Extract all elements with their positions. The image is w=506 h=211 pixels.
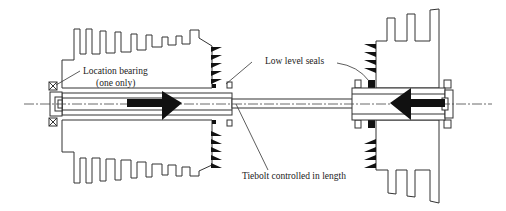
right-disk-lower bbox=[376, 120, 439, 203]
labyrinth-seals-left-upper bbox=[211, 47, 222, 84]
labyrinth-seals-left-lower bbox=[211, 131, 222, 168]
labyrinth-seals-right-upper bbox=[364, 44, 376, 73]
left-disk-upper bbox=[62, 29, 212, 88]
tiebolt bbox=[232, 99, 356, 108]
left-disk-lower bbox=[62, 120, 212, 183]
label-tiebolt: Tiebolt controlled in length bbox=[242, 171, 346, 181]
label-location-bearing-note: (one only) bbox=[96, 78, 135, 89]
leader-low-level-seals bbox=[226, 62, 252, 84]
leader-low-level-seals-right bbox=[337, 63, 369, 81]
right-disk-upper bbox=[376, 9, 439, 88]
rotor-tiebolt-diagram: Location bearing (one only) Low level se… bbox=[0, 0, 506, 211]
label-low-level-seals: Low level seals bbox=[265, 56, 324, 66]
leader-tiebolt bbox=[236, 104, 268, 170]
labyrinth-seals-right-lower bbox=[364, 139, 376, 168]
bearing-icon-lower bbox=[49, 118, 57, 126]
label-location-bearing: Location bearing bbox=[83, 66, 148, 76]
bearing-icon-upper bbox=[49, 82, 57, 90]
